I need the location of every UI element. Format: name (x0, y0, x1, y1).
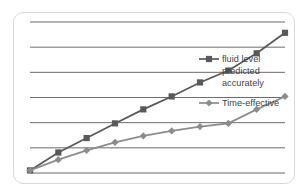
data-point-marker (55, 156, 62, 163)
data-point-marker (168, 127, 175, 134)
legend-label-fluid-level-line3: accurately (222, 78, 264, 88)
data-point-marker (140, 106, 146, 112)
legend-label-fluid-level-line2: predicted (222, 66, 260, 76)
data-point-marker (281, 93, 288, 100)
data-point-marker (197, 79, 203, 85)
data-point-marker (112, 120, 118, 126)
legend-label-time-effective: Time-effective (222, 98, 279, 108)
chart-legend: fluid levelpredictedaccuratelyTime-effec… (199, 54, 279, 108)
legend-swatch (199, 99, 219, 106)
data-point-marker (205, 99, 212, 106)
data-point-marker (84, 135, 90, 141)
data-point-marker (225, 120, 232, 127)
data-point-marker (206, 56, 212, 62)
data-point-marker (55, 149, 61, 155)
data-point-marker (282, 30, 288, 36)
legend-swatch (199, 56, 219, 62)
data-point-marker (196, 123, 203, 130)
data-point-marker (169, 93, 175, 99)
data-point-marker (111, 139, 118, 146)
line-chart: fluid levelpredictedaccuratelyTime-effec… (0, 0, 308, 196)
data-point-marker (140, 132, 147, 139)
legend-label-fluid-level-line1: fluid level (222, 54, 260, 64)
